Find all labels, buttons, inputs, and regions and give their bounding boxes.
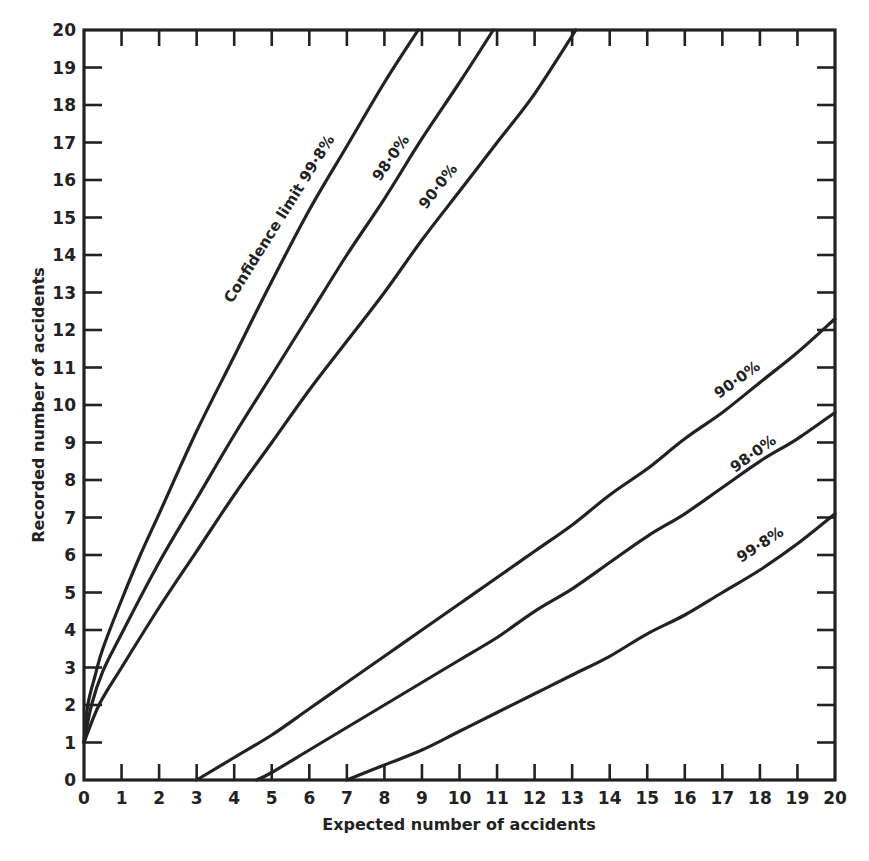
y-tick-label: 11: [52, 358, 76, 378]
x-tick-label: 5: [266, 788, 278, 808]
x-tick-label: 15: [635, 788, 659, 808]
y-tick-label: 15: [52, 208, 76, 228]
x-tick-label: 9: [416, 788, 428, 808]
y-tick-label: 5: [64, 583, 76, 603]
y-tick-label: 16: [52, 170, 76, 190]
y-tick-label: 2: [64, 695, 76, 715]
x-tick-label: 13: [560, 788, 584, 808]
x-tick-label: 16: [673, 788, 697, 808]
y-tick-label: 3: [64, 658, 76, 678]
label-upper-99-8: Confidence limit 99·8%: [220, 132, 338, 306]
y-tick-label: 1: [64, 733, 76, 753]
y-tick-label: 0: [64, 770, 76, 790]
confidence-curves: [84, 30, 835, 780]
label-lower-99-8: 99·8%: [733, 523, 786, 566]
y-tick-label: 8: [64, 470, 76, 490]
y-tick-label: 20: [52, 20, 76, 40]
y-tick-label: 9: [64, 433, 76, 453]
x-tick-label: 7: [341, 788, 353, 808]
y-tick-label: 14: [52, 245, 76, 265]
y-tick-label: 4: [64, 620, 76, 640]
label-lower-90-0: 90·0%: [711, 357, 764, 402]
x-tick-label: 6: [303, 788, 315, 808]
x-tick-label: 17: [711, 788, 735, 808]
label-upper-90-0: 90·0%: [415, 160, 461, 212]
plot-frame: [84, 30, 835, 780]
x-tick-label: 8: [378, 788, 390, 808]
x-axis-title: Expected number of accidents: [322, 815, 595, 834]
x-tick-label: 1: [116, 788, 128, 808]
y-tick-label: 7: [64, 508, 76, 528]
axis-ticks: [84, 30, 835, 780]
x-tick-label: 3: [191, 788, 203, 808]
x-tick-label: 18: [748, 788, 772, 808]
y-axis-title: Recorded number of accidents: [29, 267, 48, 543]
x-tick-label: 14: [598, 788, 622, 808]
x-tick-label: 2: [153, 788, 165, 808]
y-tick-label: 13: [52, 283, 76, 303]
x-tick-label: 4: [228, 788, 240, 808]
y-tick-label: 17: [52, 133, 76, 153]
x-tick-label: 10: [448, 788, 472, 808]
x-tick-label: 19: [786, 788, 810, 808]
x-tick-label: 0: [78, 788, 90, 808]
x-tick-label: 11: [485, 788, 509, 808]
y-tick-label: 10: [52, 395, 76, 415]
x-tick-label: 20: [823, 788, 847, 808]
y-tick-label: 12: [52, 320, 76, 340]
curve-1: [84, 30, 493, 743]
x-axis-tick-labels: 01234567891011121314151617181920: [78, 788, 847, 808]
x-tick-label: 12: [523, 788, 547, 808]
y-axis-tick-labels: 01234567891011121314151617181920: [52, 20, 76, 790]
label-upper-98-0: 98·0%: [369, 131, 414, 184]
y-tick-label: 19: [52, 58, 76, 78]
y-tick-label: 6: [64, 545, 76, 565]
curve-0: [84, 30, 418, 743]
y-tick-label: 18: [52, 95, 76, 115]
confidence-limit-chart: 01234567891011121314151617181920 0123456…: [0, 0, 869, 861]
